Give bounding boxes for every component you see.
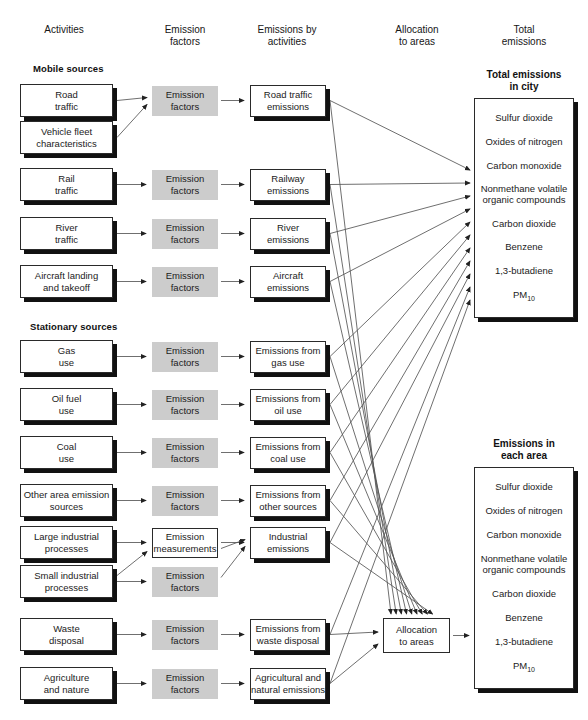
node-factor-gas-use[interactable]: Emission factors	[152, 342, 218, 372]
node-emission-agriculture-nature[interactable]: Agricultural and natural emissions	[250, 668, 326, 700]
node-activity-river-traffic[interactable]: River traffic	[20, 217, 113, 250]
node-factor-road-traffic[interactable]: Emission factors	[152, 86, 218, 116]
node-activity-vehicle-fleet[interactable]: Vehicle fleet characteristics	[20, 121, 113, 154]
column-header-emissions-by-activities: Emissions by activities	[237, 24, 337, 48]
node-emission-river-traffic[interactable]: River emissions	[250, 218, 326, 250]
node-factor-agriculture-nature[interactable]: Emission factors	[152, 669, 218, 699]
node-emission-other-area-sources[interactable]: Emissions from other sources	[250, 485, 326, 517]
node-emission-large-industrial[interactable]: Industrial emissions	[250, 527, 326, 559]
pollutant-item: Sulfur dioxide	[495, 481, 553, 492]
node-emission-rail-traffic[interactable]: Railway emissions	[250, 169, 326, 201]
pollutant-item: Carbon monoxide	[487, 160, 562, 171]
node-emission-oil-fuel-use[interactable]: Emissions from oil use	[250, 389, 326, 421]
column-header-emission-factors: Emission factors	[135, 24, 235, 48]
node-factor-waste-disposal[interactable]: Emission factors	[152, 620, 218, 650]
column-header-total-emissions: Total emissions	[474, 24, 574, 48]
pollutant-item: Carbon monoxide	[487, 529, 562, 540]
caption-emissions-in-each-area: Emissions in each area	[474, 438, 574, 462]
pollutant-item: PM10	[513, 289, 535, 304]
node-activity-large-industrial[interactable]: Large industrial processes	[20, 526, 113, 559]
node-factor-rail-traffic[interactable]: Emission factors	[152, 170, 218, 200]
node-factor-small-industrial[interactable]: Emission factors	[152, 567, 218, 597]
pollutant-item: 1,3-butadiene	[495, 265, 553, 276]
group-heading-mobile-sources: Mobile sources	[33, 63, 104, 74]
column-header-activities: Activities	[14, 24, 114, 36]
node-factor-large-industrial[interactable]: Emission measurements	[152, 528, 218, 558]
node-allocation-to-areas[interactable]: Allocation to areas	[383, 618, 450, 653]
node-activity-road-traffic[interactable]: Road traffic	[20, 84, 113, 117]
node-activity-gas-use[interactable]: Gas use	[20, 340, 113, 373]
emission-inventory-flowchart: Activities Emission factors Emissions by…	[0, 0, 588, 720]
group-heading-stationary-sources: Stationary sources	[30, 321, 117, 332]
pollutant-item: Oxides of nitrogen	[485, 505, 562, 516]
pollutant-item: Nonmethane volatile organic compounds	[481, 183, 568, 205]
node-factor-other-area-sources[interactable]: Emission factors	[152, 486, 218, 516]
node-activity-rail-traffic[interactable]: Rail traffic	[20, 168, 113, 201]
box-total-emissions-in-city[interactable]: Sulfur dioxideOxides of nitrogenCarbon m…	[474, 98, 574, 318]
node-activity-aircraft[interactable]: Aircraft landing and takeoff	[20, 265, 113, 298]
node-emission-road-traffic[interactable]: Road traffic emissions	[250, 85, 326, 117]
node-emission-gas-use[interactable]: Emissions from gas use	[250, 341, 326, 373]
pollutant-item: Benzene	[505, 612, 543, 623]
pollutant-item: Benzene	[505, 241, 543, 252]
box-emissions-in-each-area[interactable]: Sulfur dioxideOxides of nitrogenCarbon m…	[474, 467, 574, 689]
pollutant-item: Oxides of nitrogen	[485, 136, 562, 147]
pollutant-item: Carbon dioxide	[492, 218, 556, 229]
node-emission-aircraft[interactable]: Aircraft emissions	[250, 266, 326, 298]
pollutant-item: Sulfur dioxide	[495, 112, 553, 123]
node-activity-small-industrial[interactable]: Small industrial processes	[20, 565, 113, 598]
node-activity-waste-disposal[interactable]: Waste disposal	[20, 618, 113, 651]
pollutant-item: PM10	[513, 660, 535, 675]
node-factor-aircraft[interactable]: Emission factors	[152, 267, 218, 297]
pollutant-item: Carbon dioxide	[492, 588, 556, 599]
node-activity-agriculture-nature[interactable]: Agriculture and nature	[20, 667, 113, 700]
node-activity-coal-use[interactable]: Coal use	[20, 436, 113, 469]
node-factor-river-traffic[interactable]: Emission factors	[152, 219, 218, 249]
node-emission-waste-disposal[interactable]: Emissions from waste disposal	[250, 619, 326, 651]
node-factor-oil-fuel-use[interactable]: Emission factors	[152, 390, 218, 420]
pollutant-item: 1,3-butadiene	[495, 636, 553, 647]
caption-total-emissions-in-city: Total emissions in city	[474, 69, 574, 93]
node-activity-other-area-sources[interactable]: Other area emission sources	[20, 484, 113, 517]
column-header-allocation-to-areas: Allocation to areas	[367, 24, 467, 48]
pollutant-item: Nonmethane volatile organic compounds	[481, 553, 568, 575]
node-emission-coal-use[interactable]: Emissions from coal use	[250, 437, 326, 469]
node-activity-oil-fuel-use[interactable]: Oil fuel use	[20, 388, 113, 421]
node-factor-coal-use[interactable]: Emission factors	[152, 438, 218, 468]
